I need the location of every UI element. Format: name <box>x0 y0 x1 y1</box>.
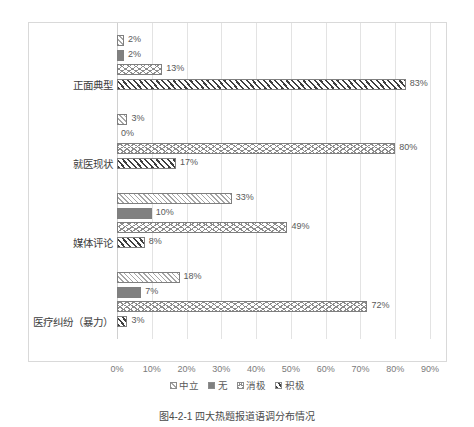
bar <box>117 64 162 75</box>
legend-swatch-icon <box>208 382 215 389</box>
bar-value-label: 2% <box>128 49 141 60</box>
bar <box>117 272 180 283</box>
bar-row: 8% <box>117 237 430 248</box>
bar-row: 3% <box>117 316 430 327</box>
x-tick-label: 60% <box>317 364 335 374</box>
figure-caption: 图4-2-1 四大热题报道语调分布情况 <box>0 404 474 427</box>
x-tick-label: 30% <box>212 364 230 374</box>
bar-value-label: 80% <box>399 142 417 153</box>
bar-row: 2% <box>117 50 430 61</box>
bar-group: 33%10%49%8% <box>117 193 430 248</box>
x-axis-tick-labels: 0%10%20%30%40%50%60%70%80%90% <box>117 364 430 378</box>
bar-group: 18%7%72%3% <box>117 272 430 327</box>
x-tick-label: 70% <box>351 364 369 374</box>
bar-value-label: 13% <box>166 63 184 74</box>
x-tick-label: 50% <box>282 364 300 374</box>
bar-row: 80% <box>117 143 430 154</box>
x-tick-label: 10% <box>143 364 161 374</box>
bar-group: 3%0%80%17% <box>117 114 430 169</box>
legend-label: 积极 <box>285 378 305 392</box>
bar <box>117 222 287 233</box>
legend-swatch-icon <box>237 382 244 389</box>
bar-group: 2%2%13%83% <box>117 35 430 90</box>
bar <box>117 301 367 312</box>
bar-row: 2% <box>117 35 430 46</box>
bar <box>117 158 176 169</box>
bar-row: 3% <box>117 114 430 125</box>
legend-swatch-icon <box>275 382 282 389</box>
legend-label: 中立 <box>179 378 199 392</box>
bar-value-label: 7% <box>145 286 158 297</box>
category-axis-labels: 正面典型就医现状媒体评论医疗纠纷（暴力） <box>0 22 113 362</box>
category-label: 正面典型 <box>73 79 113 91</box>
legend-item-消极[interactable]: 消极 <box>237 378 267 392</box>
bar-value-label: 18% <box>184 271 202 282</box>
legend-item-无[interactable]: 无 <box>208 378 228 392</box>
x-tick-label: 80% <box>386 364 404 374</box>
category-label: 媒体评论 <box>73 237 113 249</box>
bar-value-label: 3% <box>131 315 144 326</box>
x-tick-label: 0% <box>110 364 123 374</box>
bar-row: 72% <box>117 301 430 312</box>
bar-row: 33% <box>117 193 430 204</box>
bar <box>117 287 141 298</box>
bar-row: 10% <box>117 208 430 219</box>
bar <box>117 208 152 219</box>
plot-area: 2%2%13%83%3%0%80%17%33%10%49%8%18%7%72%3… <box>117 23 430 339</box>
bar-value-label: 10% <box>156 207 174 218</box>
x-tick-label: 90% <box>421 364 439 374</box>
bar-chart: 正面典型就医现状媒体评论医疗纠纷（暴力） 2%2%13%83%3%0%80%17… <box>0 0 474 427</box>
category-label: 就医现状 <box>73 158 113 170</box>
bar-value-label: 0% <box>121 128 134 139</box>
bar-row: 18% <box>117 272 430 283</box>
bar-value-label: 83% <box>410 78 428 89</box>
bar <box>117 193 232 204</box>
legend-item-中立[interactable]: 中立 <box>170 378 200 392</box>
x-tick-label: 40% <box>247 364 265 374</box>
bar <box>117 50 124 61</box>
bar-row: 17% <box>117 158 430 169</box>
gridline-90 <box>430 23 431 339</box>
bar-value-label: 33% <box>236 192 254 203</box>
bar <box>117 35 124 46</box>
bar-value-label: 49% <box>291 221 309 232</box>
bar-row: 83% <box>117 79 430 90</box>
bar-row: 0% <box>117 129 430 140</box>
bar <box>117 114 127 125</box>
legend-swatch-icon <box>170 382 177 389</box>
bar-value-label: 8% <box>149 236 162 247</box>
bar-value-label: 72% <box>371 300 389 311</box>
bar-row: 49% <box>117 222 430 233</box>
legend-label: 无 <box>218 378 228 392</box>
bar <box>117 143 395 154</box>
bar-value-label: 17% <box>180 157 198 168</box>
legend-item-积极[interactable]: 积极 <box>275 378 305 392</box>
category-label: 医疗纠纷（暴力） <box>33 316 113 328</box>
bar-row: 7% <box>117 287 430 298</box>
x-tick-label: 20% <box>178 364 196 374</box>
bar-value-label: 2% <box>128 34 141 45</box>
chart-legend: 中立无消极积极 <box>0 378 474 392</box>
bar <box>117 316 127 327</box>
bar <box>117 79 406 90</box>
bar-value-label: 3% <box>131 113 144 124</box>
bar-row: 13% <box>117 64 430 75</box>
bar <box>117 237 145 248</box>
legend-label: 消极 <box>246 378 266 392</box>
